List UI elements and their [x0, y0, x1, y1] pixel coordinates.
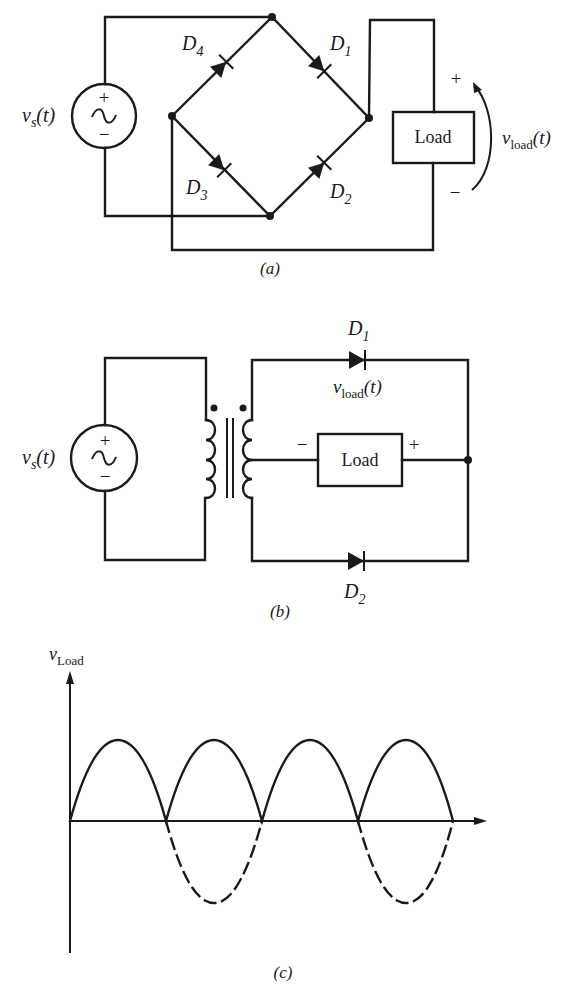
x-axis-arrow-icon [474, 817, 487, 825]
panel-b-center-tap-rectifier: + − vs(t) D1 vload(t) D2 Load [22, 317, 472, 621]
primary-top-wire [105, 358, 206, 425]
output-top-wire [369, 20, 434, 118]
secondary-coil-icon [243, 420, 252, 498]
primary-dot [211, 405, 218, 412]
source-b-minus-sign: − [100, 466, 111, 487]
vload-minus: − [450, 182, 461, 203]
caption-c: (c) [274, 963, 293, 982]
b-d2-label: D2 [343, 580, 365, 607]
node-bottom [266, 212, 274, 220]
negative-halfcycle-1-dashed [166, 821, 262, 903]
node-top [268, 13, 276, 21]
diode-b-d2-icon [348, 551, 364, 571]
d4-label: D4 [181, 32, 203, 59]
sine-glyph-b-icon [92, 451, 116, 464]
source-label: vs(t) [22, 104, 56, 130]
d2-label: D2 [329, 180, 351, 207]
source-minus-sign: − [99, 124, 110, 145]
primary-bottom-wire [105, 491, 205, 560]
vload-label-a: vload(t) [502, 127, 551, 152]
y-axis-label: vLoad [49, 644, 84, 668]
diode-b-d1-icon [349, 350, 365, 370]
vload-arrowhead-icon [473, 82, 482, 93]
caption-b: (b) [270, 602, 290, 621]
source-b-plus-sign: + [100, 430, 111, 451]
rectified-output-curve [70, 740, 453, 821]
source-plus-sign: + [99, 87, 110, 108]
secondary-dot [240, 405, 247, 412]
load-b-minus: − [297, 434, 308, 455]
sine-glyph-icon [92, 109, 116, 122]
caption-a: (a) [260, 259, 280, 278]
y-axis-arrow-icon [66, 671, 74, 684]
node-b-right [464, 456, 472, 464]
b-d1-label: D1 [347, 317, 369, 344]
panel-c-waveform: vLoad (c) [49, 644, 487, 982]
load-b-plus: + [409, 434, 420, 455]
load-label-b: Load [342, 450, 379, 470]
source-b-label: vs(t) [22, 446, 56, 472]
primary-coil-icon [206, 420, 215, 498]
figure-canvas: + − vs(t) D4 D1 D3 D2 [0, 0, 572, 996]
load-label-a: Load [415, 127, 452, 147]
d3-label: D3 [185, 176, 207, 203]
vload-plus: + [451, 68, 462, 89]
d1-label: D1 [329, 32, 351, 59]
panel-a-bridge-rectifier: + − vs(t) D4 D1 D3 D2 [22, 13, 551, 278]
negative-halfcycle-2-dashed [358, 821, 453, 903]
vload-label-b: vload(t) [333, 376, 382, 401]
